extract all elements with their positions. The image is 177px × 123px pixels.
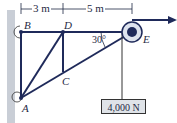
angle-label: 30°	[92, 35, 106, 45]
pulley-hub-icon	[127, 27, 137, 37]
node-label-a: A	[22, 103, 29, 114]
truss-members	[21, 32, 132, 98]
node-label-d: D	[64, 20, 72, 31]
wall	[7, 10, 15, 123]
dimension-bd: 3 m	[32, 3, 51, 14]
load-box: 4,000 N	[101, 99, 146, 114]
dimension-de: 5 m	[86, 3, 105, 14]
node-label-b: B	[24, 20, 31, 31]
member-ace	[21, 32, 132, 98]
arrowhead-icon	[168, 16, 177, 24]
member-ad	[21, 32, 63, 98]
node-label-c: C	[62, 76, 69, 87]
node-label-e: E	[143, 34, 150, 45]
